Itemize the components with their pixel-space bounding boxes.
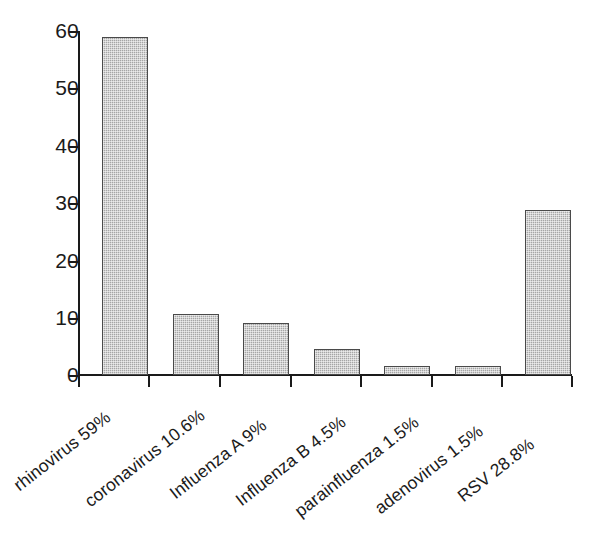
bar-rhinovirus [102,37,148,375]
bar-chart: 60 50 40 30 20 10 0 [0,0,602,555]
bar-influenza-a [243,323,289,375]
y-tick-label-60: 60 [41,20,79,41]
bar-adenovirus [455,366,501,375]
y-tick-label-30: 30 [41,192,79,213]
plot-area: 60 50 40 30 20 10 0 [0,0,602,400]
bar-influenza-b [314,349,360,375]
x-label-parainfluenza: parainfluenza 1.5% [291,412,423,521]
y-tick-label-50: 50 [41,77,79,98]
x-axis-labels: rhinovirus 59% coronavirus 10.6% Influen… [0,380,602,555]
bar-parainfluenza [384,366,430,375]
y-tick-label-10: 10 [41,307,79,328]
bar-rsv [525,210,571,375]
y-tick-label-40: 40 [41,135,79,156]
bar-coronavirus [173,314,219,375]
y-tick-label-20: 20 [41,250,79,271]
